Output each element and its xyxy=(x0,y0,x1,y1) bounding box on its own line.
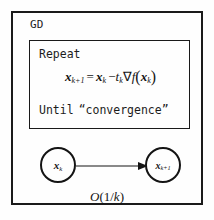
gd-outer-box: GD Repeat xk+1 = xk −tk∇f(xk) Until“conv… xyxy=(11,11,203,205)
formula-arg-sub: k xyxy=(147,76,151,85)
node-xk1: xk+1 xyxy=(145,147,181,183)
until-condition: “convergence” xyxy=(79,103,169,117)
formula-step-sub: k xyxy=(119,76,123,85)
formula-lhs-sub: k+1 xyxy=(71,76,84,85)
formula-close-paren: ) xyxy=(151,68,156,85)
gradient-operator-icon: ∇ xyxy=(123,69,132,84)
formula-rhs-var: x xyxy=(96,69,103,84)
update-rule-formula: xk+1 = xk −tk∇f(xk) xyxy=(30,69,191,87)
node-xk-label: xk xyxy=(54,159,63,171)
algorithm-inner-box: Repeat xk+1 = xk −tk∇f(xk) Until“converg… xyxy=(29,40,190,129)
rate-operator: O xyxy=(90,189,99,204)
formula-rhs-sub: k xyxy=(103,76,107,85)
iteration-graph: xk xk+1 O(1/k) xyxy=(13,141,201,205)
until-line: Until“convergence” xyxy=(39,103,169,117)
formula-minus: − xyxy=(108,69,115,84)
node-xk1-label: xk+1 xyxy=(155,160,170,171)
node-xk: xk xyxy=(40,147,76,183)
formula-equals: = xyxy=(87,69,94,84)
rate-close-paren: ) xyxy=(120,189,124,204)
convergence-rate-label: O(1/k) xyxy=(13,189,201,205)
transition-arrow-icon xyxy=(76,160,148,172)
repeat-label: Repeat xyxy=(39,47,81,61)
until-label: Until xyxy=(39,103,74,117)
gd-title-label: GD xyxy=(30,18,44,31)
gradient-descent-diagram: GD Repeat xk+1 = xk −tk∇f(xk) Until“conv… xyxy=(0,0,214,220)
